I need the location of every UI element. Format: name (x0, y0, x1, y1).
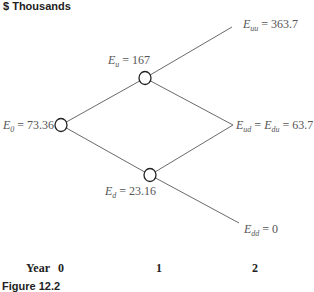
label-eu: Eu = 167 (108, 53, 150, 69)
node-e0 (55, 119, 67, 132)
units-label: $ Thousands (3, 0, 71, 12)
figure-caption: Figure 12.2 (2, 280, 60, 292)
edge-0-d (61, 125, 150, 175)
edge-d-du (150, 125, 233, 175)
label-euu: Euu = 363.7 (243, 17, 298, 33)
node-eu (139, 72, 151, 85)
edge-0-u (61, 78, 145, 125)
edge-u-ud (145, 78, 233, 125)
year-tick-0: 0 (58, 261, 64, 276)
year-tick-2: 2 (252, 261, 258, 276)
label-ed: Ed = 23.16 (105, 184, 156, 200)
year-tick-1: 1 (156, 261, 162, 276)
label-e0: E0 = 73.36 (3, 118, 54, 134)
year-axis-label: Year (26, 261, 50, 276)
node-ed (144, 169, 156, 182)
label-eud: Eud = Edu = 63.7 (236, 118, 313, 134)
edge-u-uu (145, 27, 232, 78)
label-edd: Edd = 0 (244, 222, 278, 238)
edge-d-dd (150, 175, 239, 223)
